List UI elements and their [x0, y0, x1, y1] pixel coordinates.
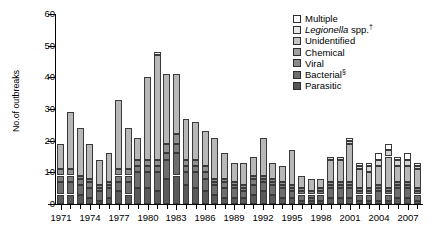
bar-segment — [57, 176, 64, 182]
x-axis-tick — [138, 205, 139, 209]
bar-segment — [279, 198, 286, 204]
bar-segment — [96, 188, 103, 191]
bar-segment — [67, 176, 74, 182]
bar-segment — [134, 188, 141, 204]
bar-segment — [414, 188, 421, 191]
bar-segment — [394, 160, 401, 166]
y-axis-tick-label-wrap: 50 — [0, 46, 55, 47]
bar-segment — [404, 198, 411, 204]
legend-item: Parasitic — [293, 80, 433, 91]
x-axis-tick — [234, 205, 235, 210]
bar-segment — [337, 182, 344, 185]
bar-segment — [327, 157, 334, 160]
bar-segment — [57, 144, 64, 169]
bar-segment — [260, 179, 267, 182]
bar-segment — [414, 163, 421, 166]
bar-segment — [125, 128, 132, 169]
bar-segment — [260, 176, 267, 179]
bar-segment — [394, 198, 401, 204]
bar-segment — [298, 176, 305, 189]
bar-segment — [221, 188, 228, 198]
bar-segment — [404, 160, 411, 166]
bar-segment — [106, 153, 113, 182]
bar-segment — [269, 179, 276, 182]
legend-label: Chemical — [305, 47, 345, 58]
bar-column — [67, 14, 74, 204]
y-axis-tick-label-wrap: 60 — [0, 14, 55, 15]
bar-segment — [250, 179, 257, 185]
bar-segment — [346, 182, 353, 185]
x-axis-tick — [157, 205, 158, 209]
bar-segment — [183, 172, 190, 185]
bar-segment — [289, 150, 296, 185]
bar-segment — [385, 201, 392, 204]
bar-segment — [289, 191, 296, 197]
x-axis-tick — [196, 205, 197, 209]
x-axis-tick — [331, 205, 332, 209]
bar-segment — [67, 169, 74, 175]
bar-segment — [144, 160, 151, 166]
bar-segment — [183, 160, 190, 166]
bar-segment — [77, 185, 84, 195]
bar-segment — [366, 201, 373, 204]
x-axis-tick — [225, 205, 226, 209]
bar-column — [231, 14, 238, 204]
bar-segment — [375, 191, 382, 201]
bar-segment — [192, 166, 199, 172]
bar-segment — [308, 195, 315, 198]
bar-column — [125, 14, 132, 204]
bar-segment — [240, 188, 247, 191]
bar-segment — [86, 179, 93, 182]
bar-segment — [211, 185, 218, 195]
bar-segment — [163, 179, 170, 204]
bar-segment — [385, 188, 392, 191]
bar-column — [163, 14, 170, 204]
legend-label: Parasitic — [305, 80, 341, 91]
bar-segment — [269, 195, 276, 205]
bar-segment — [308, 191, 315, 194]
x-axis-tick — [167, 205, 168, 209]
bar-segment — [404, 166, 411, 182]
bar-column — [134, 14, 141, 204]
bar-segment — [96, 201, 103, 204]
bar-segment — [154, 191, 161, 204]
bar-segment — [57, 169, 64, 175]
x-axis-tick — [128, 205, 129, 209]
x-axis-tick — [379, 205, 380, 210]
bar-segment — [327, 188, 334, 198]
bar-segment — [221, 179, 228, 182]
bar-segment — [115, 169, 122, 175]
bar-column — [86, 14, 93, 204]
bar-segment — [106, 182, 113, 185]
bar-segment — [337, 188, 344, 198]
bar-segment — [240, 185, 247, 188]
bar-segment — [173, 134, 180, 144]
bar-segment — [115, 182, 122, 192]
bar-segment — [115, 100, 122, 170]
bar-segment — [192, 122, 199, 160]
bar-segment — [86, 188, 93, 198]
legend-label: Multiple — [305, 13, 338, 24]
bar-segment — [154, 166, 161, 172]
legend-swatch — [293, 37, 301, 45]
bar-segment — [394, 185, 401, 188]
bar-column — [96, 14, 103, 204]
bar-segment — [414, 169, 421, 188]
bar-column — [221, 14, 228, 204]
bar-segment — [356, 201, 363, 204]
bar-segment — [414, 201, 421, 204]
bar-segment — [183, 185, 190, 204]
bar-segment — [404, 185, 411, 188]
y-axis-tick-label-wrap: 20 — [0, 141, 55, 142]
bar-segment — [298, 191, 305, 194]
bar-segment — [269, 185, 276, 195]
bar-segment — [404, 153, 411, 159]
bar-segment — [356, 188, 363, 191]
bar-segment — [154, 55, 161, 160]
x-axis-tick — [282, 205, 283, 209]
bar-segment — [356, 191, 363, 194]
bar-segment — [279, 185, 286, 188]
bar-segment — [298, 188, 305, 191]
bar-column — [106, 14, 113, 204]
bar-column — [279, 14, 286, 204]
